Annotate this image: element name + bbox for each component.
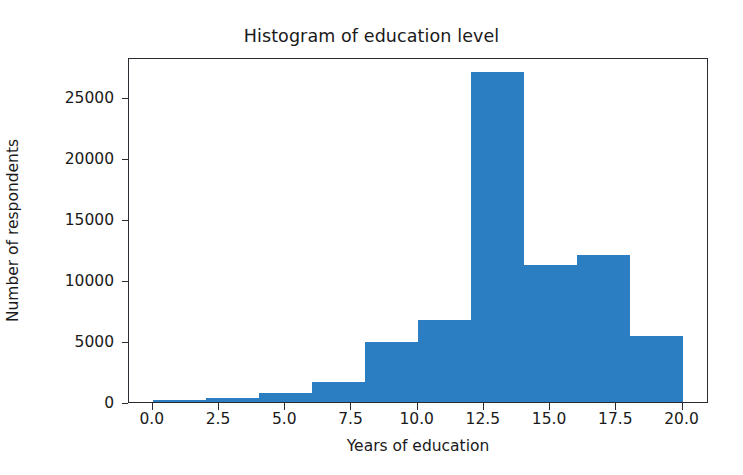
x-tick-label: 2.5 <box>206 410 231 428</box>
x-tick-mark <box>218 403 219 410</box>
x-tick-label: 10.0 <box>399 410 434 428</box>
histogram-bar <box>577 255 630 402</box>
x-tick-mark <box>682 403 683 410</box>
histogram-bar <box>206 398 259 402</box>
x-tick-mark <box>152 403 153 410</box>
histogram-bar <box>471 72 524 402</box>
x-tick-label: 12.5 <box>466 410 501 428</box>
histogram-figure: Histogram of education level 05000100001… <box>0 0 743 475</box>
histogram-bar <box>630 336 683 402</box>
x-tick-label: 0.0 <box>140 410 165 428</box>
y-axis-title: Number of respondents <box>0 58 26 403</box>
histogram-bar <box>312 382 365 402</box>
x-tick-mark <box>350 403 351 410</box>
x-tick-label: 20.0 <box>664 410 699 428</box>
x-axis-title: Years of education <box>128 437 708 455</box>
plot-area <box>128 58 708 403</box>
histogram-bars <box>129 59 707 402</box>
x-tick-mark <box>615 403 616 410</box>
x-tick-mark <box>284 403 285 410</box>
histogram-bar <box>524 265 577 402</box>
x-tick-label: 17.5 <box>598 410 633 428</box>
histogram-bar <box>418 320 471 402</box>
histogram-bar <box>259 393 312 402</box>
x-tick-label: 15.0 <box>532 410 567 428</box>
x-tick-label: 5.0 <box>272 410 297 428</box>
histogram-bar <box>365 342 418 402</box>
chart-title: Histogram of education level <box>0 26 743 46</box>
histogram-bar <box>153 400 206 402</box>
x-tick-label: 7.5 <box>338 410 363 428</box>
x-tick-mark <box>417 403 418 410</box>
x-tick-mark <box>483 403 484 410</box>
x-axis-tick-labels: 0.02.55.07.510.012.515.017.520.0 <box>128 410 708 434</box>
x-tick-mark <box>549 403 550 410</box>
